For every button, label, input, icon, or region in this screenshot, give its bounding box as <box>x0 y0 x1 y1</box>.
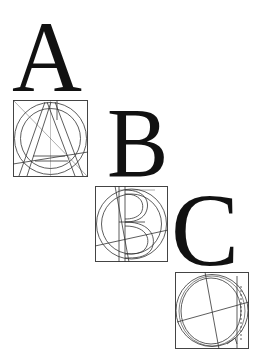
construction-c-drawing <box>175 272 249 349</box>
construction-diagram-c <box>175 272 249 349</box>
construction-a-drawing <box>13 100 88 177</box>
construction-diagram-b <box>95 186 168 262</box>
construction-diagram-a <box>13 100 88 177</box>
construction-b-drawing <box>95 186 168 262</box>
letter-a: A <box>12 6 82 108</box>
letter-c: C <box>171 178 239 282</box>
letter-b: B <box>107 93 168 193</box>
